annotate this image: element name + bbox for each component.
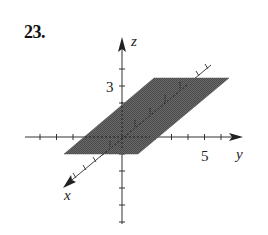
y-axis-label: y: [234, 146, 243, 162]
z-tick-label: 3: [106, 79, 114, 95]
y-tick-label: 5: [201, 148, 209, 164]
shaded-plane: [64, 78, 229, 154]
x-axis-label: x: [63, 187, 71, 203]
z-axis-label: z: [130, 33, 137, 49]
coordinate-figure: z 3 5 y x: [0, 0, 268, 235]
